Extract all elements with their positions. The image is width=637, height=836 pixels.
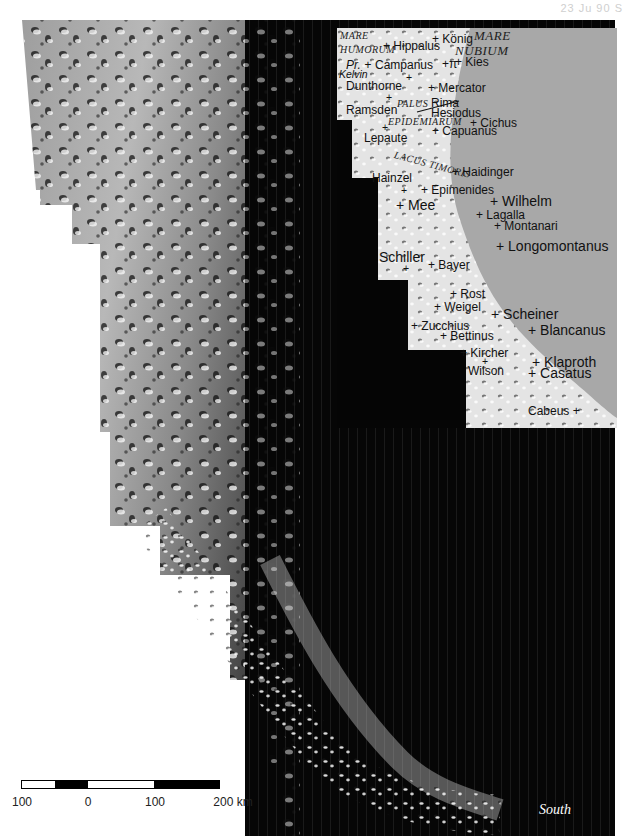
label-lepaute: Lepaute: [364, 132, 407, 144]
scale-segment-white: [22, 781, 55, 788]
scale-segment-white: [88, 781, 154, 788]
label-bettinus: + Bettinus: [440, 330, 494, 342]
label-montanari: + Montanari: [494, 220, 558, 232]
scale-tick-neg100: 100: [12, 795, 32, 809]
label-epimenides: + Epimenides: [421, 184, 494, 196]
scale-segment-black: [55, 781, 88, 788]
label-ramsden: Ramsden: [346, 104, 397, 116]
crater-marker: +: [401, 185, 407, 196]
crater-marker: +: [386, 92, 392, 103]
label-kelvin: Kelvin: [339, 69, 368, 80]
label-blancanus: + Blancanus: [528, 323, 605, 337]
scale-tick-0: 0: [85, 795, 92, 809]
label-wilson: Wilson: [468, 365, 504, 377]
scale-tick-200: 200 km: [213, 795, 252, 809]
orientation-label-south: South: [539, 802, 571, 818]
label-dunthorne: Dunthorne: [346, 80, 402, 92]
scale-segment-black: [154, 781, 219, 788]
label-bayer: + Bayer: [428, 259, 470, 271]
crater-marker: +: [403, 263, 409, 274]
mare-word: Mare: [474, 29, 511, 42]
label-palus: Palus: [397, 99, 428, 109]
label-kies: + Kies: [455, 56, 489, 68]
mare-word: Mare: [340, 31, 369, 41]
scale-bar: [21, 780, 220, 789]
label-hainzel: Hainzel: [372, 172, 412, 184]
label-cabeus: Cabeus +: [528, 405, 580, 417]
label-campanus: Campanus: [375, 59, 433, 71]
scale-tick-100: 100: [145, 795, 165, 809]
label-longomontanus: + Longomontanus: [496, 239, 608, 253]
label-weigel: + Weigel: [434, 301, 481, 313]
label-rost: + Rost: [450, 288, 485, 300]
label-haidinger: + Haidinger: [452, 166, 514, 178]
crater-marker: +: [406, 72, 412, 83]
label-schiller: Schiller: [379, 250, 425, 264]
label-mee: + Mee: [396, 198, 435, 212]
label-mercator: + Mercator: [428, 82, 486, 94]
label-casatus: + Casatus: [528, 366, 591, 380]
label-wilhelm: + Wilhelm: [490, 194, 552, 208]
label-scheiner: + Scheiner: [491, 307, 558, 321]
lunar-mosaic-image: [0, 0, 637, 836]
label-capuanus: + Capuanus: [432, 125, 497, 137]
